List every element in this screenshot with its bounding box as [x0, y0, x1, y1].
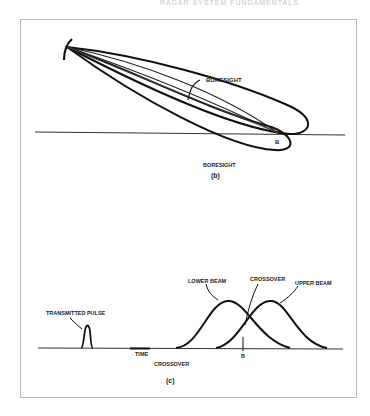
boresight-axis-label: BORESIGHT — [203, 162, 236, 168]
point-b-label-c: B — [241, 353, 245, 359]
lower-beam-label: LOWER BEAM — [188, 278, 227, 284]
figure-b: BORESIGHT B BORESIGHT (b) — [35, 39, 345, 180]
time-baseline — [38, 348, 343, 349]
figure-c: TRANSMITTED PULSE LOWER BEAM CROSSOVER U… — [38, 276, 343, 385]
point-b-label: B — [275, 139, 280, 145]
diagram-canvas: BORESIGHT B BORESIGHT (b) TRANSMITTED PU… — [0, 0, 370, 416]
caption-b: (b) — [211, 172, 220, 180]
time-label: TIME — [135, 351, 148, 357]
pulse-leader — [70, 318, 82, 329]
crossover-label: CROSSOVER — [250, 276, 285, 282]
lower-lobe — [67, 47, 290, 150]
caption-c: (c) — [166, 377, 175, 385]
transmitted-pulse-label: TRANSMITTED PULSE — [46, 310, 106, 316]
crossover-axis-label: CROSSOVER — [154, 361, 189, 367]
lower-beam-leader — [206, 284, 218, 300]
boresight-label: BORESIGHT — [206, 77, 242, 83]
transmitted-pulse — [81, 326, 93, 349]
upper-beam-leader — [280, 286, 298, 303]
upper-beam-label: UPPER BEAM — [295, 280, 332, 286]
lower-beam-curve — [176, 301, 290, 348]
boresight-line — [67, 47, 278, 133]
upper-beam-curve — [216, 301, 327, 348]
